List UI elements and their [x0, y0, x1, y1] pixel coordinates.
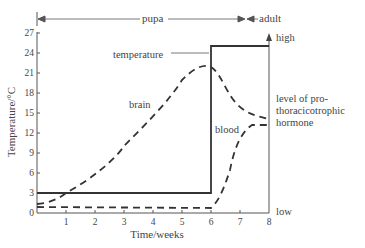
svg-text:2: 2 — [93, 217, 98, 227]
svg-text:6: 6 — [29, 168, 34, 178]
brain-annotation: brain — [129, 99, 151, 110]
svg-text:21: 21 — [25, 68, 35, 78]
svg-text:15: 15 — [25, 108, 35, 118]
y-ticks: 0 3 6 9 12 15 18 21 24 27 — [25, 28, 35, 218]
hormone-label-line1: level of pro- — [276, 93, 328, 104]
y-axis-label: Temperature/°C — [5, 87, 17, 157]
svg-text:12: 12 — [25, 128, 35, 138]
svg-text:6: 6 — [209, 217, 214, 227]
svg-text:3: 3 — [122, 217, 127, 227]
blood-annotation: blood — [215, 124, 240, 135]
svg-text:0: 0 — [29, 208, 34, 218]
svg-text:24: 24 — [25, 48, 35, 58]
svg-text:8: 8 — [267, 217, 272, 227]
svg-text:27: 27 — [25, 28, 35, 38]
high-label: high — [276, 32, 295, 43]
adult-label: adult — [259, 12, 281, 24]
temperature-line — [37, 46, 269, 193]
pupa-label: pupa — [142, 12, 164, 24]
svg-text:7: 7 — [238, 217, 243, 227]
temperature-annotation: temperature — [113, 49, 163, 60]
chart: pupa adult 0 3 6 9 12 15 18 21 24 27 1 2… — [0, 0, 365, 248]
svg-text:9: 9 — [29, 148, 34, 158]
x-axis-label: Time/weeks — [130, 228, 183, 240]
low-label: low — [276, 206, 292, 217]
svg-text:4: 4 — [151, 217, 156, 227]
high-arrow-icon — [266, 33, 272, 41]
svg-text:3: 3 — [29, 188, 34, 198]
svg-text:18: 18 — [25, 88, 35, 98]
hormone-label-line2: thoracicotrophic — [276, 105, 345, 116]
svg-text:5: 5 — [180, 217, 185, 227]
blood-line — [37, 125, 269, 208]
x-ticks: 1 2 3 4 5 6 7 8 — [64, 217, 272, 227]
hormone-label-line3: hormone — [276, 117, 314, 128]
svg-text:1: 1 — [64, 217, 69, 227]
